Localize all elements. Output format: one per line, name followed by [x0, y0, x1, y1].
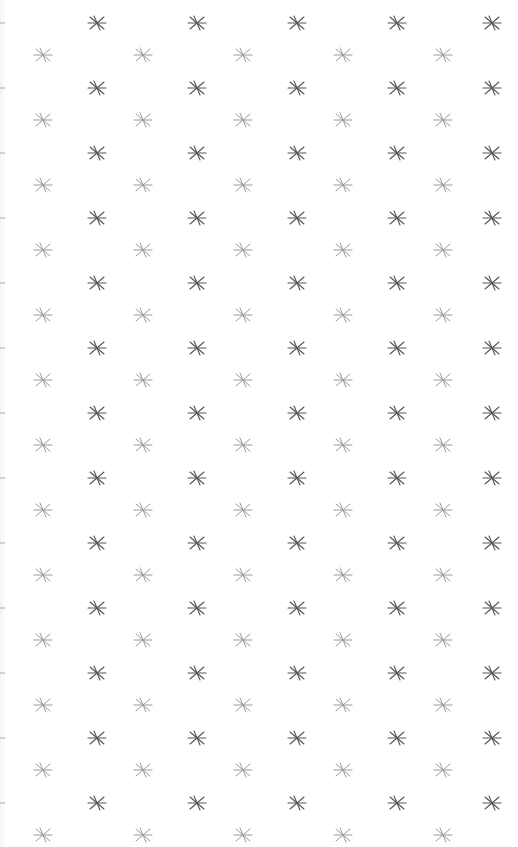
- dark-star-icon: [88, 406, 106, 420]
- light-star-icon: [334, 243, 352, 257]
- dark-star-icon: [288, 731, 306, 745]
- light-star-icon: [234, 48, 252, 62]
- dark-star-icon: [483, 211, 501, 225]
- dark-star-icon: [88, 796, 106, 810]
- light-star-icon: [334, 633, 352, 647]
- light-star-icon: [434, 373, 452, 387]
- light-star-icon: [334, 828, 352, 842]
- dark-star-icon: [483, 81, 501, 95]
- light-star-icon: [334, 568, 352, 582]
- light-star-icon: [434, 568, 452, 582]
- dark-star-icon: [483, 796, 501, 810]
- dark-star-icon: [483, 276, 501, 290]
- light-star-icon: [334, 698, 352, 712]
- dark-star-icon: [188, 81, 206, 95]
- dark-star-icon: [483, 341, 501, 355]
- light-star-icon: [434, 243, 452, 257]
- dark-star-icon: [388, 731, 406, 745]
- light-star-icon: [234, 698, 252, 712]
- dark-star-icon: [188, 341, 206, 355]
- light-star-icon: [334, 308, 352, 322]
- dark-star-icon: [188, 16, 206, 30]
- dark-star-icon: [188, 471, 206, 485]
- light-star-icon: [134, 113, 152, 127]
- dark-star-icon: [88, 536, 106, 550]
- light-star-icon: [434, 633, 452, 647]
- dark-star-icon: [483, 471, 501, 485]
- light-star-icon: [34, 243, 52, 257]
- dark-star-icon: [188, 731, 206, 745]
- dark-star-icon: [388, 146, 406, 160]
- light-star-icon: [434, 308, 452, 322]
- light-star-icon: [234, 178, 252, 192]
- light-star-icon: [334, 373, 352, 387]
- dark-star-icon: [188, 601, 206, 615]
- dark-star-icon: [188, 796, 206, 810]
- dark-star-icon: [483, 601, 501, 615]
- dark-star-icon: [388, 471, 406, 485]
- dark-star-icon: [288, 796, 306, 810]
- dark-star-icon: [388, 601, 406, 615]
- light-star-icon: [434, 113, 452, 127]
- star-pattern-background: [0, 0, 518, 847]
- dark-star-icon: [288, 16, 306, 30]
- light-star-icon: [234, 243, 252, 257]
- dark-star-icon: [288, 406, 306, 420]
- dark-star-icon: [288, 601, 306, 615]
- light-star-icon: [134, 48, 152, 62]
- light-star-icon: [434, 763, 452, 777]
- dark-star-icon: [388, 211, 406, 225]
- dark-star-icon: [483, 146, 501, 160]
- dark-star-icon: [288, 276, 306, 290]
- light-star-icon: [134, 438, 152, 452]
- dark-star-icon: [88, 81, 106, 95]
- light-star-icon: [434, 503, 452, 517]
- light-star-icon: [134, 828, 152, 842]
- light-star-icon: [434, 48, 452, 62]
- dark-star-icon: [188, 146, 206, 160]
- light-star-icon: [234, 763, 252, 777]
- light-star-icon: [434, 438, 452, 452]
- light-star-icon: [34, 373, 52, 387]
- dark-star-icon: [483, 536, 501, 550]
- light-star-icon: [34, 698, 52, 712]
- dark-star-icon: [483, 666, 501, 680]
- dark-star-icon: [88, 276, 106, 290]
- light-star-icon: [434, 828, 452, 842]
- light-star-icon: [334, 113, 352, 127]
- dark-star-icon: [288, 471, 306, 485]
- light-star-icon: [234, 828, 252, 842]
- light-star-icon: [234, 633, 252, 647]
- light-star-icon: [434, 178, 452, 192]
- light-star-icon: [34, 308, 52, 322]
- light-star-icon: [34, 763, 52, 777]
- light-star-icon: [134, 373, 152, 387]
- light-star-icon: [34, 568, 52, 582]
- dark-star-icon: [388, 81, 406, 95]
- light-star-icon: [234, 373, 252, 387]
- light-star-icon: [34, 503, 52, 517]
- light-star-icon: [234, 503, 252, 517]
- dark-star-icon: [88, 601, 106, 615]
- light-star-icon: [134, 568, 152, 582]
- dark-star-icon: [88, 211, 106, 225]
- light-star-icon: [34, 48, 52, 62]
- light-star-icon: [134, 698, 152, 712]
- dark-star-icon: [288, 81, 306, 95]
- dark-star-icon: [88, 666, 106, 680]
- dark-star-icon: [388, 796, 406, 810]
- dark-star-icon: [288, 536, 306, 550]
- light-star-icon: [134, 178, 152, 192]
- dark-star-icon: [288, 666, 306, 680]
- light-star-icon: [34, 633, 52, 647]
- light-star-icon: [334, 503, 352, 517]
- dark-star-icon: [88, 471, 106, 485]
- dark-star-icon: [388, 536, 406, 550]
- dark-star-icon: [483, 731, 501, 745]
- dark-star-icon: [88, 341, 106, 355]
- dark-star-icon: [288, 146, 306, 160]
- light-star-icon: [334, 178, 352, 192]
- dark-star-icon: [388, 276, 406, 290]
- light-star-icon: [334, 438, 352, 452]
- dark-star-icon: [88, 731, 106, 745]
